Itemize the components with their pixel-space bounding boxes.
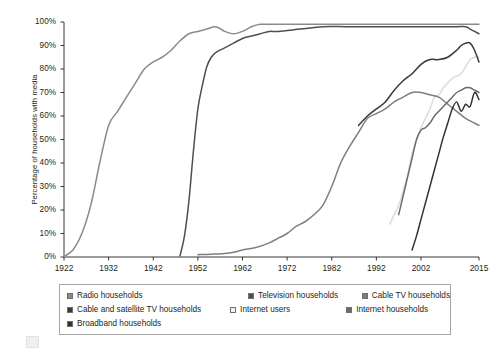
legend-swatch-icon bbox=[230, 307, 236, 313]
legend-swatch-icon bbox=[67, 321, 73, 327]
y-tick-label: 60% bbox=[22, 111, 56, 120]
legend-item-cable-tv-households[interactable]: Cable TV households bbox=[362, 291, 450, 301]
x-tick-label: 1932 bbox=[89, 263, 129, 273]
legend-label: Internet users bbox=[240, 305, 290, 315]
legend-label: Internet households bbox=[356, 305, 428, 315]
y-tick-label: 0% bbox=[22, 252, 56, 261]
y-tick-label: 50% bbox=[22, 135, 56, 144]
legend-label: Cable TV households bbox=[372, 291, 450, 301]
chart-figure: Percentage of households with media 0%10… bbox=[0, 0, 503, 349]
series-line-broadband-households bbox=[412, 92, 479, 250]
page-corner-artifact bbox=[26, 336, 39, 348]
y-tick-label: 10% bbox=[22, 229, 56, 238]
y-tick-label: 80% bbox=[22, 64, 56, 73]
y-tick-label: 30% bbox=[22, 182, 56, 191]
legend-label: Cable and satellite TV households bbox=[77, 305, 201, 315]
legend-item-radio-households[interactable]: Radio households bbox=[67, 291, 143, 301]
legend-label: Television households bbox=[258, 291, 338, 301]
legend-swatch-icon bbox=[346, 307, 352, 313]
legend-item-internet-users[interactable]: Internet users bbox=[230, 305, 290, 315]
x-tick-label: 1972 bbox=[267, 263, 307, 273]
y-tick-label: 100% bbox=[22, 17, 56, 26]
x-tick-label: 1942 bbox=[133, 263, 173, 273]
x-tick-label: 1982 bbox=[312, 263, 352, 273]
x-tick-label: 1992 bbox=[356, 263, 396, 273]
y-tick-label: 90% bbox=[22, 41, 56, 50]
legend-item-cable-and-satellite-tv-households[interactable]: Cable and satellite TV households bbox=[67, 305, 201, 315]
series-line-cable-tv-households bbox=[198, 92, 479, 255]
y-tick-label: 70% bbox=[22, 88, 56, 97]
legend-swatch-icon bbox=[67, 293, 73, 299]
series-line-television-households bbox=[180, 27, 479, 256]
legend-swatch-icon bbox=[67, 307, 73, 313]
y-tick-label: 20% bbox=[22, 205, 56, 214]
legend-item-internet-households[interactable]: Internet households bbox=[346, 305, 428, 315]
legend-row: Broadband households bbox=[60, 317, 450, 331]
legend-item-television-households[interactable]: Television households bbox=[248, 291, 338, 301]
legend-label: Broadband households bbox=[77, 319, 161, 329]
x-tick-label: 1952 bbox=[178, 263, 218, 273]
legend-item-broadband-households[interactable]: Broadband households bbox=[67, 319, 161, 329]
legend-swatch-icon bbox=[248, 293, 254, 299]
chart-legend: Radio householdsTelevision householdsCab… bbox=[59, 284, 451, 335]
x-tick-label: 2002 bbox=[401, 263, 441, 273]
legend-row: Cable and satellite TV householdsInterne… bbox=[60, 303, 450, 317]
legend-swatch-icon bbox=[362, 293, 368, 299]
x-tick-label: 1962 bbox=[222, 263, 262, 273]
x-tick-label: 2015 bbox=[459, 263, 499, 273]
legend-row: Radio householdsTelevision householdsCab… bbox=[60, 289, 450, 303]
x-tick-label: 1922 bbox=[44, 263, 84, 273]
legend-label: Radio households bbox=[77, 291, 143, 301]
y-tick-label: 40% bbox=[22, 158, 56, 167]
